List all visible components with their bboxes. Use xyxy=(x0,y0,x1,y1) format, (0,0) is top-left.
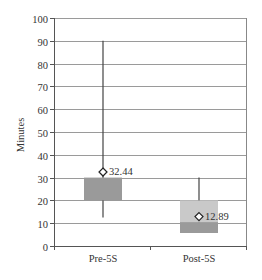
gridlines xyxy=(54,19,246,224)
x-axis-labels: Pre-5SPost-5S xyxy=(89,253,216,264)
box-post-5s: 12.89 xyxy=(180,178,229,233)
y-tick-label: 50 xyxy=(38,128,49,139)
y-tick-label: 0 xyxy=(43,242,48,253)
y-tick-label: 60 xyxy=(38,105,49,116)
y-tick-label: 20 xyxy=(38,196,49,207)
y-tick-label: 90 xyxy=(38,37,49,48)
box-lower xyxy=(180,222,218,233)
y-tick-label: 100 xyxy=(32,14,48,25)
y-tick-label: 30 xyxy=(38,174,49,185)
boxes: 32.4412.89 xyxy=(84,41,229,233)
box-iqr xyxy=(84,178,122,201)
y-tick-label: 40 xyxy=(38,151,49,162)
mean-label: 12.89 xyxy=(205,211,229,222)
y-tick-label: 70 xyxy=(38,82,49,93)
x-category-label: Post-5S xyxy=(183,253,216,264)
x-category-label: Pre-5S xyxy=(89,253,118,264)
y-axis-ticks: 0102030405060708090100 xyxy=(32,14,54,253)
box-pre-5s: 32.44 xyxy=(84,41,133,218)
mean-label: 32.44 xyxy=(109,166,133,177)
mean-diamond-icon xyxy=(99,168,107,176)
y-tick-label: 80 xyxy=(38,60,49,71)
y-tick-label: 10 xyxy=(38,219,49,230)
y-axis-title: Minutes xyxy=(15,118,26,152)
box-plot-chart: 0102030405060708090100 32.4412.89 Pre-5S… xyxy=(0,0,262,280)
